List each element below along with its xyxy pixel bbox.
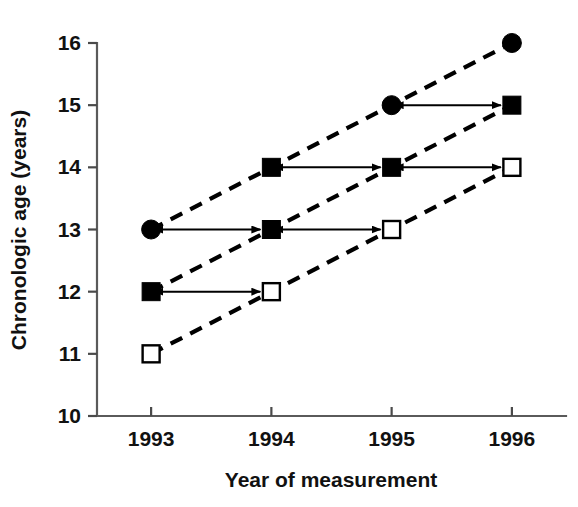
y-tick-label: 16 bbox=[58, 31, 81, 54]
x-tick-label: 1995 bbox=[368, 427, 415, 450]
y-tick-label: 15 bbox=[58, 93, 82, 116]
y-tick-label: 12 bbox=[58, 280, 81, 303]
y-axis-title: Chronologic age (years) bbox=[7, 110, 30, 350]
x-axis-ticks: 1993199419951996 bbox=[128, 407, 535, 450]
x-tick-label: 1993 bbox=[128, 427, 175, 450]
y-axis-ticks: 10111213141516 bbox=[58, 31, 97, 427]
y-tick-label: 10 bbox=[58, 404, 81, 427]
x-axis-title: Year of measurement bbox=[225, 468, 437, 491]
data-point-open-square bbox=[503, 159, 520, 176]
x-tick-label: 1994 bbox=[248, 427, 295, 450]
y-tick-label: 14 bbox=[58, 155, 82, 178]
y-tick-label: 13 bbox=[58, 218, 81, 241]
data-point-filled-circle bbox=[502, 34, 521, 53]
data-point-filled-square bbox=[142, 283, 160, 301]
data-point-open-square bbox=[263, 283, 280, 300]
y-tick-label: 11 bbox=[59, 342, 82, 365]
data-point-filled-circle bbox=[382, 96, 401, 115]
chart-figure: 10111213141516 1993199419951996 Year of … bbox=[0, 0, 578, 507]
data-point-open-square bbox=[383, 221, 400, 238]
data-point-filled-square bbox=[503, 96, 521, 114]
data-point-filled-square bbox=[262, 221, 280, 239]
x-tick-label: 1996 bbox=[489, 427, 536, 450]
series-trend-line bbox=[151, 167, 512, 354]
data-point-filled-circle bbox=[142, 220, 161, 239]
series-layer bbox=[151, 43, 512, 354]
data-point-filled-square bbox=[383, 158, 401, 176]
series-trend-line bbox=[151, 43, 512, 230]
chart-canvas: 10111213141516 1993199419951996 Year of … bbox=[0, 0, 578, 507]
data-point-filled-square bbox=[262, 158, 280, 176]
data-point-open-square bbox=[143, 345, 160, 362]
series-trend-line bbox=[151, 105, 512, 292]
